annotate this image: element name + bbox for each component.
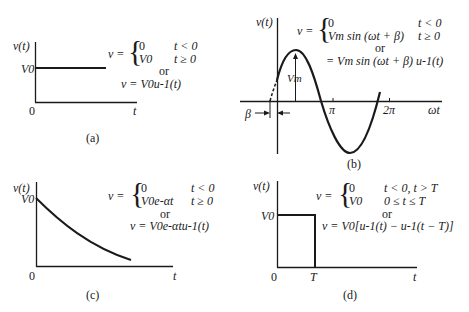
panel-d-eq-lhs: v =	[316, 190, 332, 203]
panel-b-alt-eq: = Vm sin (ωt + β) u-1(t)	[326, 55, 443, 68]
panel-a-alt-eq: v = V0u-1(t)	[121, 78, 181, 91]
panel-b-tick-pi: π	[329, 104, 335, 116]
panel-d-origin: 0	[271, 271, 277, 283]
panel-b-eq-lhs: v =	[297, 25, 313, 38]
panel-a-ylabel: v(t)	[13, 40, 30, 52]
panel-c-origin: 0	[29, 270, 35, 282]
panel-d-alt-eq: v = V0[u-1(t) − u-1(t − T)]	[322, 220, 454, 233]
panel-d-ytick-v0: V0	[261, 210, 274, 222]
panel-b-amplitude-label: Vm	[287, 73, 302, 84]
panel-a-origin: 0	[29, 105, 35, 117]
panel-d-caption: (d)	[343, 289, 357, 301]
panel-c-xlabel: t	[173, 270, 176, 282]
panel-b-ylabel: v(t)	[256, 16, 273, 28]
panel-b-phase-label: β	[245, 108, 251, 120]
panel-a-ytick-v0: V0	[21, 63, 34, 75]
panel-a-caption: (a)	[86, 132, 99, 144]
panel-c-case2-cond: t ≥ 0	[191, 195, 213, 208]
panel-c-eq-lhs: v =	[108, 190, 124, 203]
panel-a-case2-val: V0	[139, 53, 152, 66]
panel-b-case2-cond: t ≥ 0	[418, 30, 440, 43]
waveform-figure	[0, 0, 469, 312]
panel-a-case2-cond: t ≥ 0	[174, 53, 196, 66]
panel-b-xlabel: ωt	[428, 104, 440, 116]
panel-c-caption: (c)	[86, 289, 99, 301]
panel-d-ylabel: v(t)	[253, 180, 270, 192]
panel-b-case2-val: Vm sin (ωt + β)	[328, 30, 404, 43]
panel-a-xlabel: t	[133, 105, 136, 117]
panel-c-ytick-v0: V0	[21, 193, 34, 205]
panel-b-tick-2pi: 2π	[383, 104, 395, 116]
panel-d-xtick-T: T	[310, 271, 317, 283]
panel-d-case2-val: V0	[349, 195, 362, 208]
panel-a-eq-lhs: v =	[108, 48, 124, 61]
panel-c-alt-eq: v = V0e-αtu-1(t)	[130, 220, 209, 233]
panel-d-xlabel: t	[413, 271, 416, 283]
panel-b-caption: (b)	[347, 158, 361, 170]
